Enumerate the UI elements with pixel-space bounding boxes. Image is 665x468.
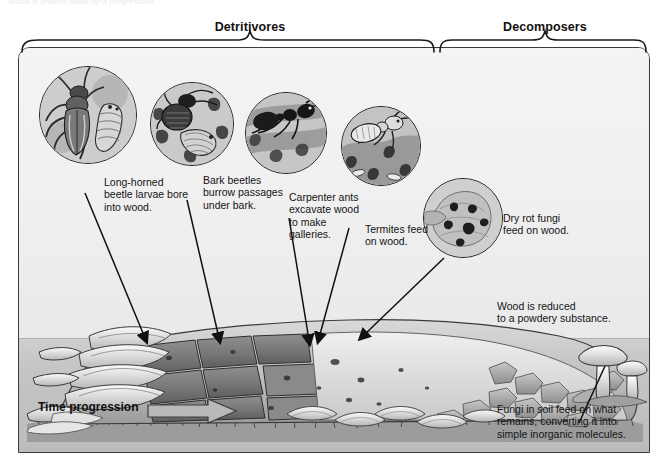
right-arrow-icon — [146, 398, 238, 424]
carpenter-ant-icon — [246, 93, 326, 173]
scene-panel: Long-hornedbeetle larvae boreinto wood. … — [18, 47, 650, 453]
arrow-long-horned-beetle — [85, 193, 145, 338]
bark-beetle-icon — [151, 83, 233, 165]
caption-termite: Termites feedon wood. — [365, 223, 457, 248]
callout-long-horned-beetle — [39, 66, 137, 164]
arrow-bark-beetle — [187, 200, 219, 338]
caption-long-horned-beetle: Long-hornedbeetle larvae boreinto wood. — [104, 176, 214, 213]
callout-carpenter-ant — [245, 92, 327, 174]
termite-icon — [342, 107, 420, 185]
arrow-termite — [319, 228, 349, 338]
caption-bark-beetle: Bark beetlesburrow passagesunder bark. — [203, 174, 303, 211]
time-progression-label: Time progression — [38, 400, 138, 414]
beetle-larva-icon — [40, 67, 136, 163]
annotation-powdery-substance: Wood is reducedto a powdery substance. — [497, 300, 647, 325]
group-label-decomposers: Decomposers — [455, 20, 635, 34]
top-cropped-caption: Wood is broken down by a progression — [8, 0, 268, 8]
group-label-detritivores: Detritivores — [160, 20, 340, 34]
caption-dry-rot-fungi: Dry rot fungifeed on wood. — [503, 212, 603, 237]
annotation-soil-fungi: Fungi in soil feed on whatremains, conve… — [497, 403, 650, 440]
callout-termite — [341, 106, 421, 186]
figure-canvas: Wood is broken down by a progression Det… — [0, 0, 665, 468]
callout-bark-beetle — [150, 82, 234, 166]
arrow-dry-rot-fungi — [363, 258, 444, 336]
